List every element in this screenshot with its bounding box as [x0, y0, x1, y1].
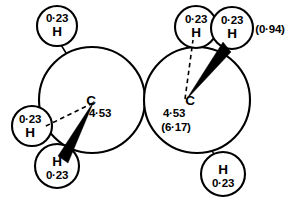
label-charge-h-top-left: 0·23	[46, 12, 68, 24]
label-charge-alt-c-right: (6·17)	[161, 121, 191, 133]
label-element-c-right: C	[185, 93, 195, 108]
label-charge-c-left: 4·53	[89, 107, 111, 119]
label-charge-h-top-mid-right: 0·23	[185, 13, 207, 25]
label-charge-h-left: 0·23	[19, 113, 41, 125]
molecule-diagram: 0·23 H 0·23 H H 0·23 C 4·53 C 4·53 (6·17…	[0, 0, 294, 203]
label-element-c-left: C	[86, 93, 96, 108]
label-element-h-bottom-right: H	[218, 162, 228, 177]
label-charge-c-right: 4·53	[163, 107, 185, 119]
label-element-h-left: H	[25, 125, 35, 140]
label-charge-h-top-right: 0·23	[221, 14, 243, 26]
molecule-canvas: 0·23 H 0·23 H H 0·23 C 4·53 C 4·53 (6·17…	[0, 0, 294, 203]
label-element-h-bottom-left: H	[52, 154, 62, 169]
label-charge-h-bottom-left: 0·23	[46, 169, 68, 181]
atom-circle-c-right	[144, 47, 250, 153]
label-charge-h-bottom-right: 0·23	[212, 177, 234, 189]
label-bracket-annotation: (0·94)	[255, 23, 285, 35]
label-element-h-top-left: H	[52, 24, 62, 39]
label-element-h-top-right: H	[227, 26, 237, 41]
label-element-h-top-mid-right: H	[191, 25, 201, 40]
